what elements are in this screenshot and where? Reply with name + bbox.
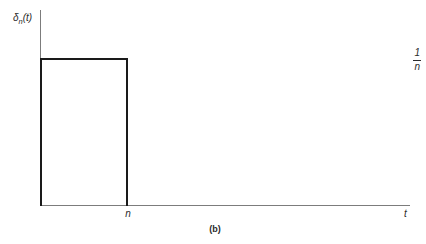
figure-caption: (b) [185,224,245,234]
x-tick-label-n: n [112,208,144,219]
pulse-top-edge [40,58,128,60]
y-axis-label-argument: (t) [23,12,32,23]
y-tick-label-one-over-n: 1 n [386,48,426,72]
pulse-rising-edge [40,58,42,206]
fraction-denominator: n [413,62,421,73]
pulse-falling-edge [126,58,128,206]
x-axis-label: t [404,208,407,219]
fraction-one-over-n: 1 n [413,48,421,72]
delta-sequence-figure: δn(t) 1 n n t (b) [0,0,426,244]
x-axis-line [40,205,410,206]
fraction-numerator: 1 [413,48,421,59]
y-axis-label: δn(t) [13,12,32,26]
